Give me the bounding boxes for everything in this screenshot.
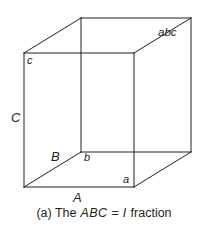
- caption-equals: =: [111, 206, 118, 220]
- label-b-lower: b: [84, 152, 90, 163]
- cube-connector-edges: [24, 18, 191, 187]
- cube-front-face: [24, 53, 134, 187]
- label-a-lower: a: [123, 174, 129, 185]
- connector-top-left: [24, 18, 81, 53]
- caption-math-abc: ABC: [80, 206, 107, 220]
- caption-suffix: fraction: [131, 206, 172, 220]
- label-A-upper: A: [73, 191, 82, 204]
- caption-prefix: (a) The: [36, 206, 76, 220]
- cube-figure: c C B b A a abc (a) TheABC=Ifraction: [0, 0, 208, 230]
- label-c-lower: c: [27, 55, 33, 66]
- label-C-upper: C: [11, 111, 20, 124]
- label-B-upper: B: [51, 150, 60, 163]
- connector-bottom-right: [134, 152, 191, 187]
- figure-caption: (a) TheABC=Ifraction: [0, 206, 208, 221]
- caption-math-i: I: [123, 206, 127, 220]
- label-abc: abc: [158, 27, 177, 39]
